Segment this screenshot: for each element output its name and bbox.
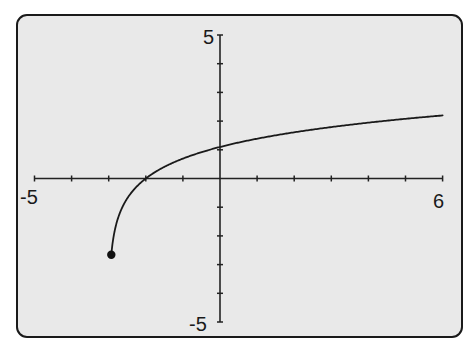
x-min-label: -5 bbox=[20, 186, 38, 208]
curve-start-point bbox=[107, 251, 115, 259]
plot-frame bbox=[17, 15, 462, 337]
graph-window: -5 6 5 -5 bbox=[0, 0, 469, 348]
x-max-label: 6 bbox=[433, 190, 444, 212]
y-min-label: -5 bbox=[189, 313, 207, 335]
y-max-label: 5 bbox=[203, 26, 214, 48]
